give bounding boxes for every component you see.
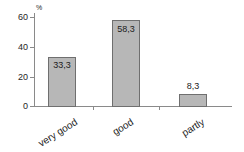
bar-chart: % 60 40 20 0 33,3 58,3 8,3 very good goo… — [0, 0, 244, 152]
x-category-label-very-good: very good — [10, 117, 80, 152]
x-tick-mark-1 — [93, 106, 94, 110]
y-tick-mark-0 — [30, 106, 35, 107]
y-tick-mark-60 — [30, 17, 35, 18]
y-tick-mark-40 — [30, 47, 35, 48]
y-tick-label-20-wrap: 20 — [0, 73, 28, 82]
y-tick-label-40-wrap: 40 — [0, 43, 28, 52]
bar-value-partly: 8,3 — [179, 82, 207, 91]
y-tick-label-40: 40 — [0, 43, 28, 52]
y-tick-label-0: 0 — [0, 102, 28, 111]
y-axis-unit-label: % — [36, 4, 42, 11]
y-tick-mark-20 — [30, 77, 35, 78]
y-tick-label-20: 20 — [0, 73, 28, 82]
y-axis-line — [34, 13, 35, 107]
y-tick-label-0-wrap: 0 — [0, 102, 28, 111]
x-category-label-good: good — [88, 117, 136, 152]
bar-value-good: 58,3 — [112, 25, 140, 34]
y-tick-label-60: 60 — [0, 13, 28, 22]
y-tick-label-60-wrap: 60 — [0, 13, 28, 22]
x-tick-mark-2 — [159, 106, 160, 110]
bar-value-very-good: 33,3 — [48, 61, 76, 70]
x-category-label-partly: partly — [154, 117, 207, 152]
bar-partly — [179, 94, 207, 107]
